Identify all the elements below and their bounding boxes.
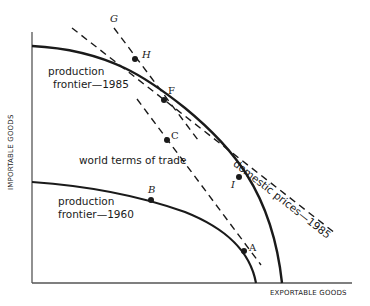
label-I: I bbox=[231, 180, 235, 190]
frontier-1960-label-line2: frontier—1960 bbox=[58, 209, 134, 220]
frontier-1985-label-line1: production bbox=[48, 66, 104, 77]
label-B: B bbox=[148, 185, 155, 195]
label-H: H bbox=[142, 50, 151, 60]
frontier-1985-label-line2: frontier—1985 bbox=[53, 79, 129, 90]
y-axis-label: IMPORTABLE GOODS bbox=[8, 114, 15, 190]
point-A bbox=[241, 248, 247, 254]
point-B bbox=[148, 197, 154, 203]
label-A: A bbox=[249, 243, 256, 253]
world-terms-of-trade-label: world terms of trade bbox=[79, 155, 186, 166]
x-axis-label: EXPORTABLE GOODS bbox=[270, 290, 347, 297]
frontier-1960-label-line1: production bbox=[58, 196, 114, 207]
label-F: F bbox=[168, 86, 175, 96]
point-C bbox=[164, 137, 170, 143]
world-terms-of-trade-line bbox=[137, 99, 261, 265]
point-H bbox=[132, 56, 138, 62]
label-G: G bbox=[110, 14, 118, 24]
trade-diagram bbox=[0, 0, 370, 306]
label-C: C bbox=[171, 131, 179, 141]
point-F bbox=[161, 97, 167, 103]
